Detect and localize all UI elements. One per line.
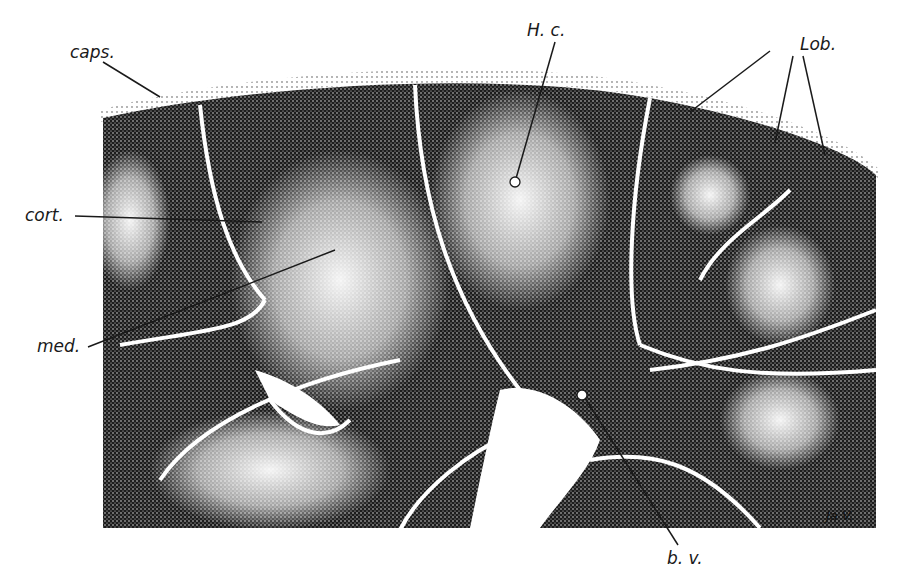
label-blood-vessel: b. v. — [667, 550, 703, 567]
medulla-region — [720, 370, 840, 470]
medulla-region — [725, 225, 835, 345]
artist-signature: Ja V. — [826, 508, 853, 523]
thymus-section-illustration — [0, 0, 905, 584]
hassall-corpuscle — [510, 177, 520, 187]
label-capsule: caps. — [70, 44, 115, 61]
medulla-region — [90, 150, 170, 290]
label-cortex: cort. — [25, 207, 64, 224]
label-medulla: med. — [37, 338, 80, 355]
label-lobules: Lob. — [800, 36, 836, 53]
blood-vessel — [577, 390, 587, 400]
label-hassall-corpuscle: H. c. — [527, 22, 565, 39]
medulla-region — [150, 410, 390, 530]
medulla-region — [670, 155, 750, 235]
medulla-region — [230, 150, 450, 410]
medulla-region — [430, 90, 610, 310]
